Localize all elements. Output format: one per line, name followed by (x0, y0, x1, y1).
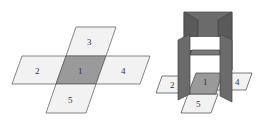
cube-net-diagram: 3 2 1 4 5 2 1 4 5 (0, 0, 263, 124)
label-5-folded: 5 (196, 99, 201, 109)
opening-bottom (190, 55, 220, 73)
label-4-folded: 4 (235, 77, 240, 87)
label-5: 5 (68, 95, 73, 105)
label-1: 1 (78, 66, 83, 76)
label-2-folded: 2 (170, 80, 175, 90)
label-1-folded: 1 (203, 77, 208, 87)
opening-top (190, 37, 220, 50)
label-2: 2 (35, 66, 40, 76)
left-wall (178, 34, 190, 100)
right-folded (156, 12, 252, 113)
right-wall (220, 34, 232, 102)
inner-shelf (190, 50, 220, 55)
label-4: 4 (121, 66, 126, 76)
label-3: 3 (87, 37, 92, 47)
